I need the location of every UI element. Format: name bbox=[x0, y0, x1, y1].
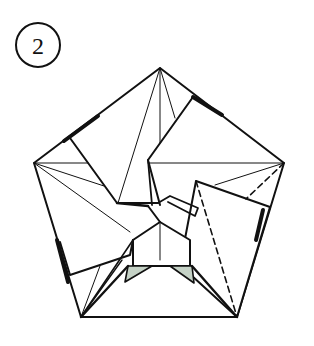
step-number: 2 bbox=[32, 33, 44, 59]
step-badge: 2 bbox=[16, 23, 60, 67]
pentagon-model bbox=[34, 68, 284, 317]
origami-diagram: 2 bbox=[0, 0, 314, 346]
